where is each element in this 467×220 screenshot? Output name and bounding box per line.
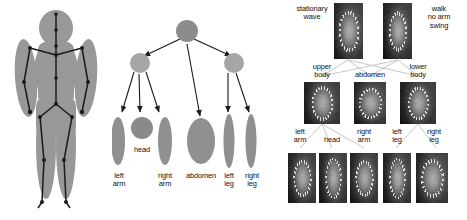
- tree-node-upper-body: [130, 53, 150, 73]
- leaf-shape-right-leg: [246, 114, 257, 168]
- tree-label-right-leg: right leg: [239, 172, 265, 189]
- grid-label-left-arm: left arm: [284, 128, 316, 145]
- tile-left-arm[interactable]: [288, 153, 316, 203]
- leaf-shape-head: [131, 117, 153, 139]
- tree-edges: [122, 39, 249, 116]
- grid-label-stationary-wave: stationary wave: [290, 5, 334, 22]
- tile-lower-body[interactable]: [400, 82, 436, 124]
- tile-right-leg[interactable]: [416, 153, 448, 203]
- grid-label-abdomen: abdomen: [346, 71, 394, 79]
- tree-label-right-arm: right arm: [152, 172, 178, 189]
- grid-label-upper-body: upper body: [298, 63, 346, 80]
- grid-label-walk-no-arm-swing: walk no arm swing: [414, 5, 464, 30]
- grid-label-lower-body: lower body: [394, 63, 442, 80]
- grid-label-head: head: [316, 136, 348, 144]
- body-figure-svg: [0, 0, 112, 220]
- tree-root-node: [176, 20, 198, 42]
- tile-abdomen[interactable]: [354, 82, 386, 124]
- tile-left-leg[interactable]: [383, 153, 411, 203]
- grid-label-left-leg: left leg: [382, 128, 412, 145]
- leaf-shape-right-arm: [158, 117, 172, 165]
- tile-right-arm[interactable]: [350, 153, 378, 203]
- grid-label-right-arm: right arm: [348, 128, 380, 145]
- tree-label-abdomen: abdomen: [180, 172, 222, 180]
- leaf-shape-left-leg: [224, 114, 235, 168]
- tile-walk-no-arm-swing[interactable]: [383, 3, 412, 59]
- grid-label-right-leg: right leg: [418, 128, 450, 145]
- leaf-shape-left-arm: [112, 117, 125, 165]
- tree-node-lower-body: [224, 53, 244, 73]
- tree-leaf-shapes: [112, 114, 257, 168]
- image-grid-panel: stationary wave walk no arm swing upper …: [290, 0, 467, 220]
- tile-stationary-wave[interactable]: [334, 3, 363, 59]
- body-figure-panel: [0, 0, 112, 220]
- tree-label-left-leg: left leg: [217, 172, 241, 189]
- tree-label-left-arm: left arm: [106, 172, 132, 189]
- tile-head[interactable]: [319, 153, 347, 203]
- leaf-shape-abdomen: [187, 118, 215, 164]
- hierarchy-tree-panel: left arm head right arm abdomen left leg…: [112, 0, 290, 220]
- tile-upper-body[interactable]: [304, 82, 340, 124]
- tree-label-head: head: [129, 146, 155, 154]
